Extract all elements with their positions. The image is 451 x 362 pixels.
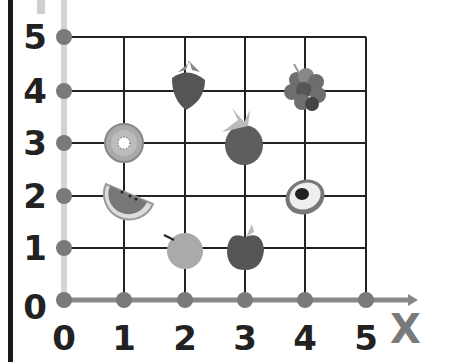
y-tick-label: 3 bbox=[18, 126, 52, 160]
orange-icon bbox=[164, 233, 203, 269]
x-axis-label: X bbox=[390, 306, 421, 352]
avocado-icon bbox=[280, 173, 331, 221]
y-tick-label: 5 bbox=[18, 20, 52, 54]
y-tick-label: 1 bbox=[18, 231, 52, 265]
y-tick-label: 4 bbox=[18, 74, 52, 108]
axis-dots bbox=[56, 29, 374, 308]
y-tick-label: 2 bbox=[18, 179, 52, 213]
x-tick-label: 4 bbox=[288, 318, 322, 358]
x-tick-label: 3 bbox=[228, 318, 262, 358]
x-tick-label: 0 bbox=[47, 318, 81, 358]
coordinate-grid bbox=[0, 0, 451, 362]
y-axis-arrow bbox=[37, 0, 45, 14]
kiwi-icon bbox=[105, 124, 143, 162]
raspberry-icon bbox=[222, 108, 263, 165]
x-tick-label: 5 bbox=[349, 318, 383, 358]
x-tick-label: 2 bbox=[168, 318, 202, 358]
grapes-icon bbox=[284, 64, 326, 111]
x-axis-arrow-icon bbox=[408, 294, 418, 306]
strawberry-icon bbox=[172, 60, 205, 110]
watermelon-icon bbox=[104, 184, 153, 220]
x-tick-label: 1 bbox=[107, 318, 141, 358]
